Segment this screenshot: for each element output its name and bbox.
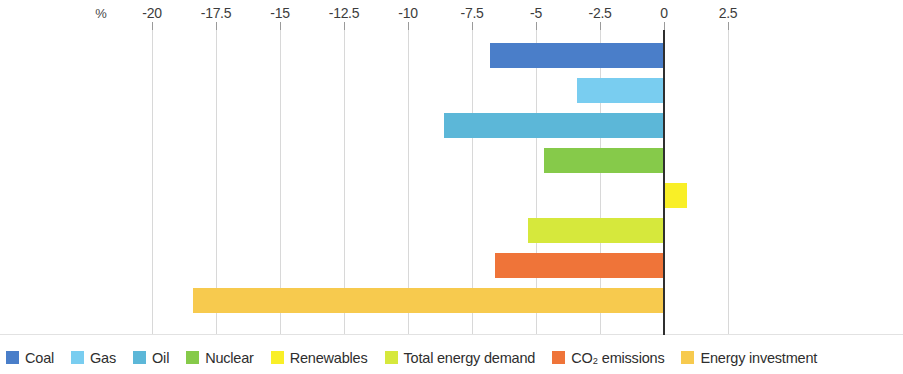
bar-renewables — [664, 183, 687, 208]
x-tick-label: 0 — [660, 5, 668, 21]
legend-swatch-icon — [385, 351, 398, 364]
x-tick-label: -17.5 — [201, 5, 231, 21]
x-tick-mark — [536, 22, 537, 30]
legend-item[interactable]: CO₂ emissions — [552, 350, 664, 366]
legend-item[interactable]: Energy investment — [681, 350, 817, 366]
bar-coal — [490, 43, 664, 68]
bar-total-energy-demand — [528, 218, 664, 243]
legend-swatch-icon — [186, 351, 199, 364]
legend-item[interactable]: Coal — [6, 350, 54, 366]
bar-co-emissions — [495, 253, 664, 278]
legend-swatch-icon — [71, 351, 84, 364]
gridline — [152, 30, 153, 335]
x-tick-label: -5 — [530, 5, 542, 21]
bar-chart: % -20-17.5-15-12.5-10-7.5-5-2.502.5 Coal… — [0, 0, 903, 374]
legend-item-label: Coal — [25, 350, 54, 366]
bar-gas — [577, 78, 664, 103]
legend-item-label: Gas — [90, 350, 116, 366]
gridline — [728, 30, 729, 335]
x-axis: % -20-17.5-15-12.5-10-7.5-5-2.502.5 — [0, 0, 903, 30]
x-tick-mark — [408, 22, 409, 30]
x-tick-label: -12.5 — [329, 5, 359, 21]
x-tick-mark — [216, 22, 217, 30]
legend-swatch-icon — [6, 351, 19, 364]
bar-oil — [444, 113, 664, 138]
x-tick-mark — [728, 22, 729, 30]
legend-item-label: Energy investment — [700, 350, 817, 366]
x-tick-mark — [152, 22, 153, 30]
zero-axis-line — [663, 30, 665, 335]
legend-item-label: Oil — [152, 350, 169, 366]
plot-area — [0, 30, 903, 335]
legend-swatch-icon — [133, 351, 146, 364]
bar-nuclear — [544, 148, 664, 173]
x-tick-label: -2.5 — [589, 5, 612, 21]
chart-legend: CoalGasOilNuclearRenewablesTotal energy … — [0, 341, 903, 374]
legend-item-label: Total energy demand — [404, 350, 536, 366]
legend-swatch-icon — [552, 351, 565, 364]
x-tick-label: -7.5 — [461, 5, 484, 21]
x-tick-label: -15 — [270, 5, 289, 21]
legend-item[interactable]: Oil — [133, 350, 169, 366]
legend-item[interactable]: Total energy demand — [385, 350, 536, 366]
legend-item-label: Renewables — [290, 350, 368, 366]
legend-item[interactable]: Nuclear — [186, 350, 254, 366]
legend-item[interactable]: Gas — [71, 350, 116, 366]
legend-item-label: Nuclear — [205, 350, 254, 366]
legend-swatch-icon — [681, 351, 694, 364]
baseline — [0, 334, 903, 335]
legend-item-label: CO₂ emissions — [571, 350, 664, 366]
x-tick-mark — [600, 22, 601, 30]
axis-unit-label: % — [95, 6, 107, 21]
x-tick-mark — [344, 22, 345, 30]
x-tick-mark — [472, 22, 473, 30]
x-tick-mark — [664, 22, 665, 30]
legend-swatch-icon — [271, 351, 284, 364]
x-tick-label: -20 — [142, 5, 161, 21]
bar-energy-investment — [193, 288, 664, 313]
x-tick-label: -10 — [398, 5, 417, 21]
x-tick-label: 2.5 — [719, 5, 738, 21]
x-tick-mark — [280, 22, 281, 30]
legend-item[interactable]: Renewables — [271, 350, 368, 366]
